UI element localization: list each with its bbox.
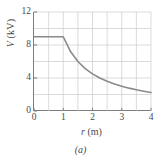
x-tick-label: 4 bbox=[149, 113, 154, 123]
y-tick-label: 4 bbox=[26, 73, 31, 83]
chart-canvas bbox=[34, 12, 151, 111]
y-axis-label-unit: (kV) bbox=[5, 19, 16, 39]
y-tick-label: 0 bbox=[26, 106, 31, 116]
x-tick-label: 1 bbox=[61, 113, 66, 123]
plot-area: 04812 01234 bbox=[33, 12, 150, 111]
x-tick-label: 0 bbox=[32, 113, 37, 123]
x-axis-label-unit: (m) bbox=[87, 126, 101, 137]
figure-caption: (a) bbox=[0, 144, 161, 155]
y-tick-label: 12 bbox=[22, 7, 32, 17]
x-axis-label-symbol: r bbox=[81, 126, 85, 137]
figure-panel: V (kV) 04812 01234 r (m) (a) bbox=[0, 0, 161, 163]
y-tick-label: 8 bbox=[26, 40, 31, 50]
x-axis-label: r (m) bbox=[33, 126, 150, 137]
x-tick-label: 3 bbox=[119, 113, 124, 123]
y-axis-label-symbol: V bbox=[5, 41, 16, 47]
y-axis-label: V (kV) bbox=[4, 0, 18, 66]
tick-marks-x bbox=[34, 108, 151, 111]
x-tick-label: 2 bbox=[90, 113, 95, 123]
